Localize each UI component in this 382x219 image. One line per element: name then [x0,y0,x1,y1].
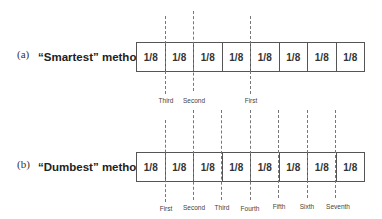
panel-b-title: “Dumbest” method [38,161,143,173]
cut-label-seventh: Seventh [326,203,350,210]
fraction-cell: 1/8 [137,43,165,71]
panel-dumbest: (b) “Dumbest” method 1/8 1/8 1/8 1/8 1/8… [0,110,382,219]
fraction-cell: 1/8 [336,43,365,71]
cut-label-fifth: Fifth [273,203,286,210]
panel-a-tag: (a) [17,48,29,60]
cut-line-third [165,16,166,94]
cut-line-third [221,110,222,200]
panel-b-tag: (b) [17,158,30,170]
fraction-cell: 1/8 [307,153,336,181]
cut-line-sixth [307,110,308,198]
cut-label-second: Second [183,97,205,104]
fraction-cell: 1/8 [165,153,194,181]
fraction-cell: 1/8 [336,153,365,181]
fraction-cell: 1/8 [137,153,165,181]
cut-label-second: Second [183,204,205,211]
fraction-cell: 1/8 [250,43,279,71]
panel-smartest: (a) “Smartest” method 1/8 1/8 1/8 1/8 1/… [0,0,382,110]
cut-label-first: First [160,205,173,212]
cut-line-fifth [278,110,279,198]
cut-label-third: Third [215,204,230,211]
fraction-cell: 1/8 [250,153,279,181]
cut-line-seventh [335,110,336,198]
fraction-cell: 1/8 [193,153,222,181]
fraction-cell: 1/8 [279,153,308,181]
fraction-cell: 1/8 [222,153,251,181]
cut-label-sixth: Sixth [300,203,314,210]
cut-label-third: Third [159,97,174,104]
fraction-cell: 1/8 [279,43,308,71]
fraction-cell: 1/8 [165,43,194,71]
panel-a-title: “Smartest” method [38,51,143,63]
cut-line-fourth [250,110,251,200]
cut-label-first: First [245,97,258,104]
fraction-cell: 1/8 [222,43,251,71]
cut-line-second [193,110,194,200]
cut-line-first [250,16,251,94]
fraction-cell: 1/8 [193,43,222,71]
cut-label-fourth: Fourth [241,205,260,212]
cut-line-first [165,120,166,202]
cut-line-second [193,11,194,91]
fraction-cell: 1/8 [307,43,336,71]
